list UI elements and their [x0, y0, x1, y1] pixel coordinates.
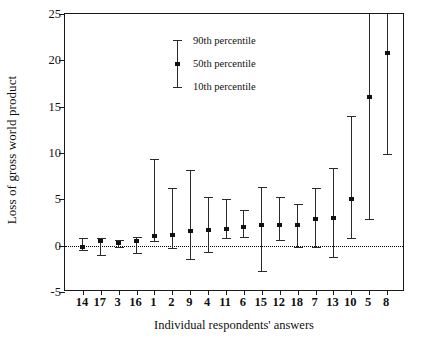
- whisker-line-8: [387, 14, 388, 154]
- whisker-cap-p10-8: [383, 154, 392, 155]
- whisker-cap-p10-7: [312, 247, 321, 248]
- median-marker-6: [241, 225, 246, 229]
- whisker-cap-p10-17: [97, 255, 106, 256]
- x-tick-label-16: 16: [129, 296, 142, 309]
- y-tick-label-15: 15: [49, 100, 62, 113]
- x-tick-label-13: 13: [326, 296, 339, 309]
- whisker-cap-p90-11: [222, 199, 231, 200]
- median-marker-10: [349, 197, 354, 201]
- whisker-cap-p10-16: [133, 253, 142, 254]
- whisker-cap-p10-1: [150, 241, 159, 242]
- whisker-cap-p90-7: [312, 188, 321, 189]
- y-tick-label--5: -5: [51, 286, 61, 299]
- whisker-cap-p10-14: [79, 250, 88, 251]
- x-tick-label-14: 14: [76, 296, 89, 309]
- x-tick-label-6: 6: [240, 296, 246, 309]
- median-marker-3: [116, 241, 121, 245]
- whisker-cap-p10-2: [168, 248, 177, 249]
- x-tick-label-11: 11: [219, 296, 231, 309]
- median-marker-12: [277, 223, 282, 227]
- whisker-cap-p10-12: [276, 240, 285, 241]
- median-marker-15: [259, 223, 264, 227]
- x-tick-label-4: 4: [204, 296, 210, 309]
- x-tick-label-8: 8: [383, 296, 389, 309]
- whisker-cap-p10-11: [222, 238, 231, 239]
- y-tick-label-20: 20: [49, 54, 62, 67]
- x-tick-label-9: 9: [186, 296, 192, 309]
- whisker-cap-p10-15: [258, 271, 267, 272]
- legend-label-p10: 10th percentile: [193, 82, 256, 93]
- median-marker-4: [206, 228, 211, 232]
- legend-bottom-cap-icon: [173, 87, 182, 88]
- y-tick-label-5: 5: [55, 193, 61, 206]
- whisker-cap-p90-18: [294, 204, 303, 205]
- x-tick-label-12: 12: [272, 296, 285, 309]
- chart-figure: Loss of gross world product -50510152025…: [0, 0, 422, 341]
- whisker-line-6: [243, 210, 244, 238]
- x-tick-label-1: 1: [150, 296, 156, 309]
- x-tick-label-15: 15: [255, 296, 268, 309]
- y-axis-title: Loss of gross world product: [2, 0, 22, 300]
- legend-label-p90: 90th percentile: [193, 36, 256, 47]
- whisker-cap-p90-14: [79, 238, 88, 239]
- x-tick-label-2: 2: [168, 296, 174, 309]
- legend-top-cap-icon: [173, 40, 182, 41]
- x-axis-title: Individual respondents' answers: [64, 318, 404, 333]
- y-tick-label-10: 10: [49, 147, 62, 160]
- whisker-cap-p10-5: [365, 219, 374, 220]
- x-tick-label-5: 5: [365, 296, 371, 309]
- whisker-cap-p90-2: [168, 188, 177, 189]
- whisker-line-15: [261, 187, 262, 270]
- whisker-cap-p90-6: [240, 210, 249, 211]
- x-tick-label-17: 17: [94, 296, 107, 309]
- legend-label-p50: 50th percentile: [193, 59, 256, 70]
- median-marker-16: [134, 239, 139, 243]
- median-marker-5: [367, 95, 372, 99]
- whisker-line-13: [333, 168, 334, 257]
- whisker-cap-p10-13: [329, 257, 338, 258]
- whisker-cap-p10-3: [115, 247, 124, 248]
- plot-area: -50510152025 90th percentile 50th percen…: [64, 13, 404, 291]
- whisker-line-9: [190, 170, 191, 259]
- median-marker-11: [224, 227, 229, 231]
- whisker-line-1: [154, 159, 155, 241]
- median-marker-7: [313, 217, 318, 221]
- median-marker-8: [385, 51, 390, 55]
- x-tick-label-7: 7: [311, 296, 317, 309]
- x-tick-label-18: 18: [290, 296, 303, 309]
- whisker-cap-p10-9: [186, 259, 195, 260]
- whisker-line-5: [369, 14, 370, 219]
- median-marker-18: [295, 223, 300, 227]
- whisker-cap-p10-4: [204, 252, 213, 253]
- whisker-cap-p90-1: [150, 159, 159, 160]
- whisker-line-4: [208, 197, 209, 252]
- whisker-cap-p90-13: [329, 168, 338, 169]
- legend-median-marker-icon: [175, 62, 180, 66]
- median-marker-9: [188, 229, 193, 233]
- y-tick-label-0: 0: [55, 239, 61, 252]
- whisker-cap-p10-10: [347, 238, 356, 239]
- y-tick-label-25: 25: [49, 8, 62, 21]
- median-marker-1: [152, 234, 157, 238]
- whisker-cap-p10-18: [294, 247, 303, 248]
- whisker-line-11: [226, 199, 227, 238]
- x-tick-label-10: 10: [344, 296, 357, 309]
- whisker-cap-p90-10: [347, 116, 356, 117]
- whisker-cap-p90-12: [276, 197, 285, 198]
- whisker-line-10: [351, 116, 352, 238]
- whisker-line-12: [279, 197, 280, 240]
- median-marker-17: [98, 239, 103, 243]
- x-tick-label-3: 3: [115, 296, 121, 309]
- median-marker-13: [331, 216, 336, 220]
- whisker-cap-p90-4: [204, 197, 213, 198]
- median-marker-14: [80, 245, 85, 249]
- whisker-cap-p90-15: [258, 187, 267, 188]
- whisker-cap-p90-9: [186, 170, 195, 171]
- median-marker-2: [170, 233, 175, 237]
- whisker-line-2: [172, 188, 173, 248]
- whisker-cap-p10-6: [240, 237, 249, 238]
- chart-legend: 90th percentile 50th percentile 10th per…: [169, 36, 319, 94]
